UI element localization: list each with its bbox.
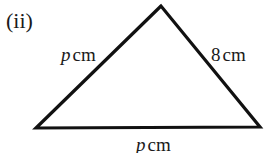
diagram-stage: (ii) pcm 8cm pcm	[0, 0, 268, 153]
part-label: (ii)	[6, 10, 33, 32]
left-side-label: pcm	[61, 45, 96, 64]
bottom-side-variable: p	[136, 134, 146, 153]
left-side-unit: cm	[73, 44, 96, 65]
right-side-label: 8cm	[211, 45, 246, 64]
triangle-shape	[0, 0, 268, 153]
right-side-unit: cm	[223, 44, 246, 65]
bottom-side-label: pcm	[136, 135, 171, 153]
left-side-variable: p	[61, 44, 71, 65]
bottom-side-unit: cm	[148, 134, 171, 153]
right-side-value: 8	[211, 44, 221, 65]
